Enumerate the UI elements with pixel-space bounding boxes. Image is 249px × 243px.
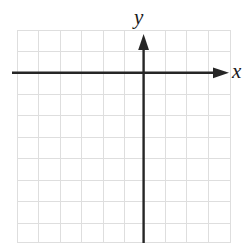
coordinate-plane-svg [0,0,249,243]
x-axis-label: x [232,61,241,82]
y-axis-label: y [134,7,143,28]
coordinate-grid-figure: y x [0,0,249,243]
